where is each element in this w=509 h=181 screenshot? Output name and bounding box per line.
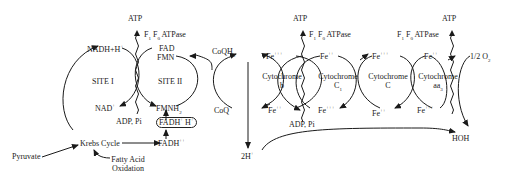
diagram-lines xyxy=(0,0,509,181)
cytochrome-b-label: Cytochromeb xyxy=(252,72,312,90)
fmn-label: FMN xyxy=(157,53,174,62)
coqh2-label: CoQH2 xyxy=(212,47,235,56)
atpase-label-1: F1 F0 ATPase xyxy=(144,30,186,39)
cyt-c-fe-bottom: Fe++ xyxy=(372,109,386,118)
fad-label: FAD xyxy=(159,44,174,53)
fmnh2-label: FMNH2 xyxy=(156,104,182,113)
adp-label-2: ADP, Pi xyxy=(289,120,315,129)
atpase-label-2: F1 F0 ATPase xyxy=(309,30,351,39)
adp-label-1: ADP, Pi xyxy=(116,117,142,126)
cyt-c-fe-top: Fe+++ xyxy=(372,52,388,61)
cyt-b-fe-bottom: Fe++ xyxy=(268,106,282,115)
site-1-label: SITE I xyxy=(92,77,114,86)
cyt-aa3-fe-bottom: Fe+++ xyxy=(417,106,433,115)
cytochrome-aa3-label: Cytochromeaa3 xyxy=(410,72,466,90)
pyruvate-label: Pyruvate xyxy=(12,152,40,161)
cytochrome-c-label: CytochromeC xyxy=(360,72,416,90)
nad-label: NAD+ xyxy=(95,104,115,113)
fadh-h-box: FADH+ H+ xyxy=(156,117,197,128)
atpase-wave-1 xyxy=(136,34,139,114)
water-label: HOH xyxy=(452,134,469,143)
fatty-acid-oxidation-label: Fatty AcidOxidation xyxy=(106,155,150,173)
nadh-label: NADH+H+ xyxy=(87,45,123,54)
coq-label: CoQ xyxy=(214,106,229,115)
cyt-c1-fe-bottom: Fe+++ xyxy=(318,106,334,115)
fadh-label: FADH++ xyxy=(158,139,185,148)
atp-label-3: ATP xyxy=(442,14,456,23)
site-2-label: SITE II xyxy=(158,77,182,86)
atp-label-2: ATP xyxy=(293,14,307,23)
cyt-aa3-fe-top: Fe++ xyxy=(424,52,438,61)
cyt-c1-fe-top: Fe++ xyxy=(320,52,334,61)
cytochrome-c1-label: CytochromeC1 xyxy=(310,72,366,90)
krebs-cycle-label: Krebs Cycle xyxy=(80,139,120,148)
oxygen-label: 1/2 O2 xyxy=(470,52,491,61)
cyt-b-fe-top: Fe+++ xyxy=(266,52,282,61)
atp-label-1: ATP xyxy=(128,14,142,23)
protons-label: 2H+ xyxy=(241,152,254,161)
atpase-label-3: F1 F0 ATPase xyxy=(397,30,439,39)
